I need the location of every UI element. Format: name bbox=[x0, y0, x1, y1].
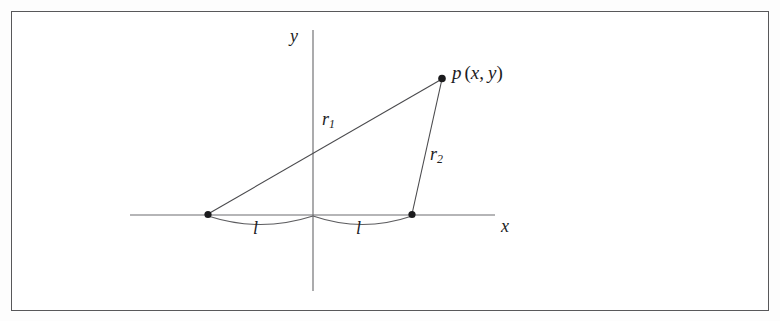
segment-r2-label-base: r bbox=[430, 144, 437, 164]
brace-left-label: l bbox=[253, 219, 258, 237]
point-p-label-base: p bbox=[452, 62, 462, 83]
segment-r2-label-subscript: 2 bbox=[437, 152, 443, 166]
figure-root: y x p(x,y) r1 r2 l l bbox=[0, 0, 780, 321]
segment-r1-label-base: r bbox=[322, 109, 329, 129]
point-p-label-y: y bbox=[484, 62, 496, 83]
point-p-label: p(x,y) bbox=[452, 63, 503, 82]
segment-r1-label: r1 bbox=[322, 110, 335, 131]
segment-r1-label-subscript: 1 bbox=[329, 117, 335, 131]
point-p-label-x: x bbox=[471, 62, 479, 83]
brace-arc-right bbox=[313, 216, 412, 225]
point-dot-focus-right bbox=[408, 211, 415, 218]
brace-arc-left bbox=[208, 216, 313, 225]
point-p-label-close: ) bbox=[496, 62, 502, 83]
brace-right-label: l bbox=[356, 219, 361, 237]
y-axis-label: y bbox=[290, 27, 298, 45]
point-dot-focus-left bbox=[204, 211, 211, 218]
x-axis-label: x bbox=[501, 217, 509, 235]
segment-r1 bbox=[208, 79, 442, 214]
diagram-canvas bbox=[0, 0, 780, 321]
segment-r2-label: r2 bbox=[430, 145, 443, 166]
point-p-label-open: ( bbox=[462, 62, 471, 83]
point-dot-p bbox=[438, 75, 446, 83]
